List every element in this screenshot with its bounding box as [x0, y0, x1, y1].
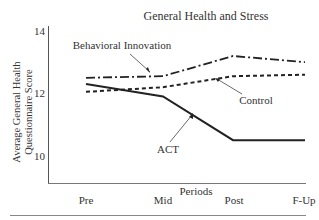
y-tick-14: 14 — [34, 25, 46, 37]
x-tick-pre: Pre — [79, 194, 94, 206]
annotation-control: Control — [239, 94, 273, 106]
annotation-behavioral-innovation: Behavioral Innovation — [73, 39, 172, 51]
y-axis-label: Average General Health Questionnaire Sco… — [11, 61, 34, 163]
x-tick-fup: F-Up — [292, 194, 316, 206]
x-axis-label: Periods — [180, 185, 213, 197]
svg-text:Questionnaire Score: Questionnaire Score — [23, 69, 34, 155]
x-tick-post: Post — [225, 194, 244, 206]
arrow-act — [170, 115, 192, 142]
svg-text:Average General Health: Average General Health — [11, 61, 22, 163]
x-tick-mid: Mid — [154, 194, 173, 206]
y-tick-12: 12 — [34, 87, 45, 99]
series-behavioral-innovation — [86, 56, 305, 78]
chart-title: General Health and Stress — [144, 9, 269, 23]
chart: General Health and Stress 14 12 10 Avera… — [0, 0, 319, 220]
arrow-control — [217, 79, 242, 94]
annotation-act: ACT — [157, 143, 179, 155]
y-tick-10: 10 — [34, 150, 46, 162]
series-act — [86, 84, 305, 140]
arrowhead-icon — [146, 67, 150, 73]
